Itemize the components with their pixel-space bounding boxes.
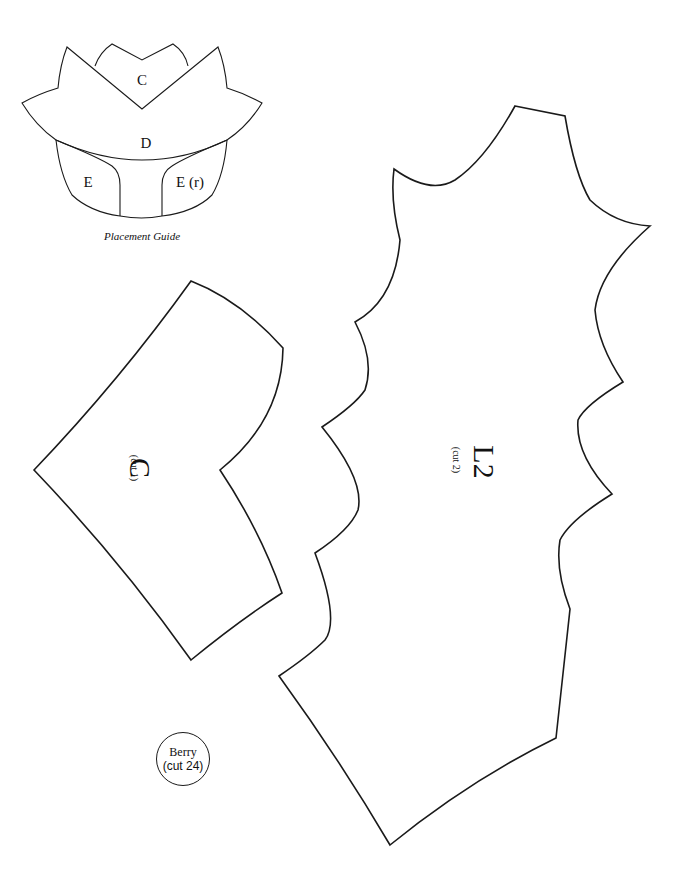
- pattern-piece-berry: Berry (cut 24): [156, 732, 210, 786]
- piece-c-cut-count: (cut 1): [129, 455, 140, 481]
- berry-cut-count: (cut 24): [163, 759, 204, 774]
- guide-label-d: D: [141, 135, 152, 152]
- guide-label-c: C: [137, 72, 147, 89]
- pattern-sheet: [0, 0, 694, 891]
- piece-l2-letter: L2: [467, 445, 501, 478]
- guide-label-e: E: [83, 174, 92, 191]
- placement-guide-caption: Placement Guide: [104, 230, 180, 242]
- berry-label: Berry: [169, 745, 196, 759]
- pattern-piece-l2-outline: [279, 106, 650, 845]
- guide-piece-c: [95, 44, 188, 66]
- guide-label-e-reversed: E (r): [176, 174, 204, 191]
- piece-l2-cut-count: (cut 2): [451, 447, 462, 473]
- pattern-piece-c-outline: [34, 281, 283, 660]
- placement-guide-diagram: [22, 44, 262, 218]
